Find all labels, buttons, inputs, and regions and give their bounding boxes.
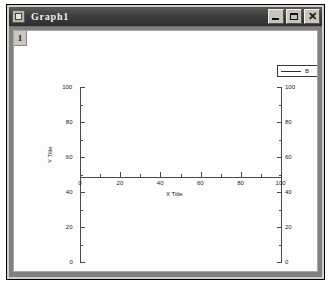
window-client-area: 1 B 020406080100020406080100020406080100… (9, 26, 322, 277)
y-axis-left-tick-label: 40 (66, 189, 73, 195)
x-axis-minor-tick (221, 174, 222, 177)
y-axis-left-tick (80, 262, 85, 263)
layer-index-badge[interactable]: 1 (14, 31, 27, 46)
y-axis-left-minor-tick (80, 210, 83, 211)
y-axis-left-minor-tick (80, 175, 83, 176)
y-axis-left-tick-label: 60 (66, 154, 73, 160)
x-axis-tick-label: 60 (197, 180, 204, 186)
graph-page[interactable]: 1 B 020406080100020406080100020406080100… (13, 30, 318, 272)
y-axis-left-tick (80, 122, 85, 123)
y-axis-right-minor-tick (279, 105, 282, 106)
x-axis-minor-tick (261, 174, 262, 177)
y-axis-right-tick-label: 60 (285, 154, 292, 160)
y-axis-left-tick (80, 87, 85, 88)
y-axis-title-left: Y Title (47, 146, 53, 163)
x-axis-tick-label: 100 (276, 180, 286, 186)
y-axis-left-tick (80, 227, 85, 228)
y-axis-right-tick (277, 157, 282, 158)
y-axis-right-tick-label: 80 (285, 119, 292, 125)
y-axis-right-tick (277, 262, 282, 263)
y-axis-left-tick-label: 0 (69, 259, 72, 265)
legend-entry-label: B (305, 68, 309, 74)
y-axis-title-right: Y Title (317, 146, 318, 163)
x-axis-tick-label: 20 (117, 180, 124, 186)
minimize-button[interactable] (268, 9, 284, 24)
legend-line-sample (281, 71, 301, 72)
close-button[interactable]: ✕ (304, 9, 320, 24)
y-axis-right-minor-tick (279, 245, 282, 246)
x-axis-minor-tick (100, 174, 101, 177)
graph-window: Graph1 ✕ 1 B 020406080100020406080100020… (6, 4, 325, 280)
y-axis-right-tick-label: 20 (285, 224, 292, 230)
legend[interactable]: B (277, 65, 318, 77)
y-axis-left-tick-label: 20 (66, 224, 73, 230)
maximize-button[interactable] (286, 9, 302, 24)
y-axis-right-tick (277, 192, 282, 193)
x-axis-line (80, 177, 282, 178)
x-axis-tick-label: 80 (237, 180, 244, 186)
y-axis-left-tick-label: 80 (66, 119, 73, 125)
y-axis-right-tick-label: 100 (285, 84, 295, 90)
y-axis-right-minor-tick (279, 210, 282, 211)
window-title: Graph1 (31, 11, 266, 22)
x-axis-title: X Title (166, 191, 183, 197)
y-axis-right-tick (277, 122, 282, 123)
x-axis-tick (241, 172, 242, 177)
y-axis-right-tick (277, 227, 282, 228)
y-axis-right-tick-label: 40 (285, 189, 292, 195)
x-axis-tick-label: 0 (78, 180, 81, 186)
y-axis-right-tick-label: 0 (285, 259, 288, 265)
y-axis-right-tick (277, 87, 282, 88)
x-axis-minor-tick (181, 174, 182, 177)
y-axis-left-tick (80, 192, 85, 193)
window-title-bar[interactable]: Graph1 ✕ (9, 7, 322, 26)
x-axis-tick-label: 40 (157, 180, 164, 186)
x-axis-tick (120, 172, 121, 177)
y-axis-left-tick-label: 100 (62, 84, 72, 90)
x-axis-tick (160, 172, 161, 177)
y-axis-right-minor-tick (279, 175, 282, 176)
y-axis-left-minor-tick (80, 105, 83, 106)
x-axis-tick (201, 172, 202, 177)
y-axis-left-tick (80, 157, 85, 158)
y-axis-left-minor-tick (80, 140, 83, 141)
y-axis-right-minor-tick (279, 140, 282, 141)
x-axis-minor-tick (140, 174, 141, 177)
y-axis-left-minor-tick (80, 245, 83, 246)
graph-window-icon (12, 10, 25, 23)
